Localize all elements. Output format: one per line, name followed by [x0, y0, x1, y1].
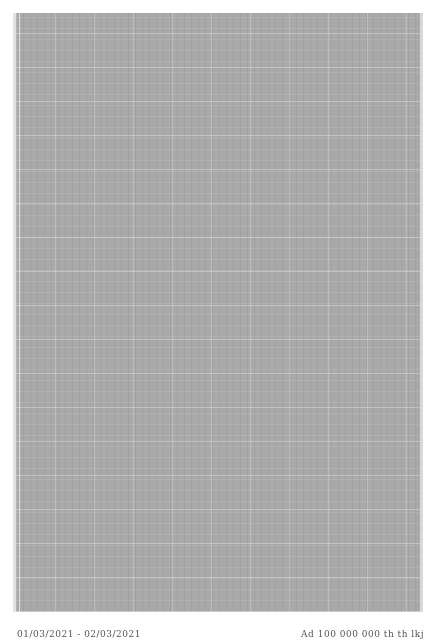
page-footer: 01/03/2021 - 02/03/2021 Ad 100 000 000 t… [0, 629, 438, 643]
footer-date-range: 01/03/2021 - 02/03/2021 [17, 629, 141, 639]
scanned-page-area [13, 13, 423, 612]
footer-reference: Ad 100 000 000 th th lkj [301, 629, 424, 639]
page-edge-line [19, 13, 20, 612]
